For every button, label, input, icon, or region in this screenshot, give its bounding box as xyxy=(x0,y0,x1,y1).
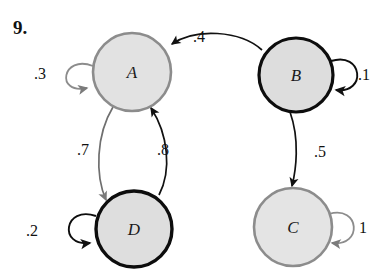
self-loop-B-path xyxy=(331,59,357,90)
self-loop-D-path xyxy=(69,214,96,243)
edge-weight-B-to-C: .5 xyxy=(314,143,326,160)
edge-weight-D-self: .2 xyxy=(26,222,38,239)
node-D[interactable]: D xyxy=(96,191,172,267)
edge-A-to-D: .7 xyxy=(77,107,113,200)
edge-B-to-A-path xyxy=(172,33,262,50)
edge-A-to-D-path xyxy=(99,107,113,200)
self-loop-A: .3 xyxy=(34,64,93,89)
self-loop-C: 1 xyxy=(329,213,367,244)
edge-B-to-C: .5 xyxy=(290,112,326,186)
node-B[interactable]: B xyxy=(259,38,333,112)
self-loop-B: .1 xyxy=(331,59,370,90)
edge-B-to-C-path xyxy=(290,112,296,186)
edge-B-to-A: .4 xyxy=(172,28,262,50)
node-A-label: A xyxy=(126,63,138,82)
node-D-label: D xyxy=(127,220,141,239)
edge-D-to-A: .8 xyxy=(151,108,169,195)
self-loop-D: .2 xyxy=(26,214,96,243)
edge-weight-B-self: .1 xyxy=(358,66,370,83)
node-A[interactable]: A xyxy=(93,33,171,111)
node-C[interactable]: C xyxy=(254,188,332,266)
node-B-label: B xyxy=(291,66,302,85)
node-C-label: C xyxy=(287,218,299,237)
edge-weight-C-self: 1 xyxy=(359,219,367,236)
edge-weight-B-to-A: .4 xyxy=(193,28,205,45)
edge-weight-D-to-A: .8 xyxy=(157,141,169,158)
self-loop-A-path xyxy=(66,64,93,89)
edge-weight-A-to-D: .7 xyxy=(77,141,89,158)
state-diagram-canvas: .4 .7 .8 .5 .3 .1 1 .2 xyxy=(0,0,390,273)
edge-weight-A-self: .3 xyxy=(34,65,46,82)
